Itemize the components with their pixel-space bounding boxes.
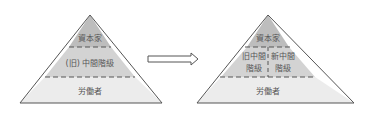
label-capitalist-after: 資本家 xyxy=(256,33,280,43)
arrow-right-icon xyxy=(148,53,198,65)
class-structure-diagram: 資本家 (旧) 中間階級 労働者 資本家 旧中間 階級 新中間 階級 労働者 xyxy=(0,0,371,113)
label-old-middle-class-line2: 階級 xyxy=(246,63,262,73)
pyramid-before: 資本家 (旧) 中間階級 労働者 xyxy=(20,15,162,103)
label-new-middle-class-line2: 階級 xyxy=(275,63,291,73)
label-old-middle-class: (旧) 中間階級 xyxy=(66,58,115,68)
label-workers-after: 労働者 xyxy=(256,86,280,96)
label-new-middle-class-line1: 新中間 xyxy=(271,51,295,61)
label-capitalist-before: 資本家 xyxy=(78,33,102,43)
label-workers-before: 労働者 xyxy=(78,86,102,96)
pyramid-after: 資本家 旧中間 階級 新中間 階級 労働者 xyxy=(197,15,354,103)
label-old-middle-class-line1: 旧中間 xyxy=(242,51,266,61)
